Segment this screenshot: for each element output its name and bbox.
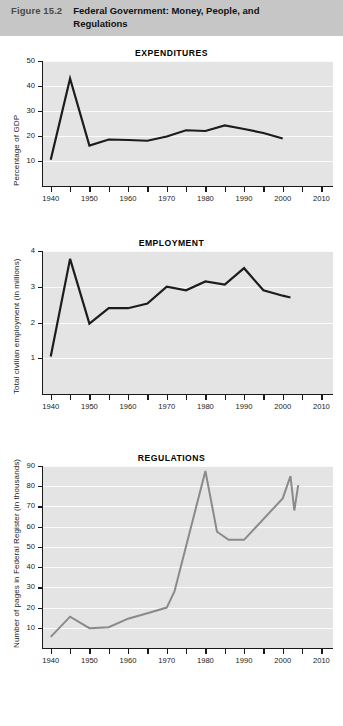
x-tick-label: 1970 xyxy=(154,656,180,665)
y-tick xyxy=(38,161,42,162)
y-tick-label: 3 xyxy=(19,282,35,291)
x-tick xyxy=(51,187,52,192)
series-layer xyxy=(43,61,333,186)
x-tick xyxy=(263,395,264,400)
y-tick xyxy=(38,486,42,487)
y-tick-label: 60 xyxy=(19,522,35,531)
x-tick xyxy=(225,395,226,400)
x-tick-label: 1980 xyxy=(192,194,218,203)
x-tick xyxy=(321,395,322,400)
x-tick xyxy=(283,187,284,192)
x-tick xyxy=(244,187,245,192)
x-tick-label: 1990 xyxy=(231,402,257,411)
x-tick-label: 2000 xyxy=(270,402,296,411)
y-tick xyxy=(38,466,42,467)
data-line-employment-0 xyxy=(51,259,291,357)
x-tick xyxy=(70,395,71,400)
x-tick xyxy=(51,649,52,654)
x-tick-label: 2000 xyxy=(270,656,296,665)
x-axis-expenditures xyxy=(42,186,333,187)
x-tick xyxy=(128,395,129,400)
y-axis-expenditures xyxy=(42,61,43,187)
x-tick-label: 1970 xyxy=(154,194,180,203)
y-tick-label: 20 xyxy=(19,131,35,140)
x-tick xyxy=(186,187,187,192)
series-layer xyxy=(43,251,333,394)
x-tick xyxy=(147,187,148,192)
x-tick-label: 1940 xyxy=(38,402,64,411)
y-tick-label: 40 xyxy=(19,81,35,90)
plot-area-regulations xyxy=(43,466,333,648)
x-tick-label: 1950 xyxy=(76,402,102,411)
x-tick xyxy=(109,649,110,654)
x-tick xyxy=(147,649,148,654)
x-tick-label: 2010 xyxy=(308,402,334,411)
x-tick xyxy=(244,649,245,654)
x-tick xyxy=(147,395,148,400)
chart-regulations: REGULATIONSNumber of pages in Federal Re… xyxy=(0,453,343,674)
y-tick-label: 2 xyxy=(19,318,35,327)
y-axis-regulations xyxy=(42,466,43,649)
x-tick xyxy=(89,649,90,654)
x-axis-employment xyxy=(42,394,333,395)
x-tick-label: 1950 xyxy=(76,194,102,203)
x-tick-label: 1980 xyxy=(192,402,218,411)
x-tick xyxy=(89,395,90,400)
y-tick-label: 70 xyxy=(19,501,35,510)
x-tick-label: 1980 xyxy=(192,656,218,665)
x-tick-label: 1960 xyxy=(115,656,141,665)
x-tick-label: 1950 xyxy=(76,656,102,665)
chart-expenditures: EXPENDITURESPercentage of GDP10203040501… xyxy=(0,48,343,212)
x-tick-label: 2010 xyxy=(308,194,334,203)
data-line-expenditures-0 xyxy=(51,79,283,160)
x-tick xyxy=(283,649,284,654)
y-tick xyxy=(38,608,42,609)
y-tick-label: 90 xyxy=(19,461,35,470)
y-tick xyxy=(38,86,42,87)
x-tick xyxy=(70,649,71,654)
x-tick xyxy=(225,187,226,192)
x-tick xyxy=(205,187,206,192)
figure-title: Federal Government: Money, People, and R… xyxy=(73,5,309,30)
x-tick xyxy=(167,649,168,654)
series-layer xyxy=(43,466,333,648)
y-tick xyxy=(38,287,42,288)
y-tick-label: 30 xyxy=(19,582,35,591)
x-tick xyxy=(302,649,303,654)
y-tick-label: 10 xyxy=(19,623,35,632)
y-tick xyxy=(38,506,42,507)
y-tick xyxy=(38,251,42,252)
x-tick xyxy=(89,187,90,192)
y-axis-label-expenditures: Percentage of GDP xyxy=(12,115,21,186)
figure-number: Figure 15.2 xyxy=(11,5,62,16)
chart-title-expenditures: EXPENDITURES xyxy=(0,48,343,58)
x-tick xyxy=(321,649,322,654)
plot-area-expenditures xyxy=(43,61,333,186)
x-tick-label: 2000 xyxy=(270,194,296,203)
y-tick xyxy=(38,587,42,588)
y-tick-label: 20 xyxy=(19,603,35,612)
x-tick xyxy=(302,395,303,400)
x-tick xyxy=(225,649,226,654)
figure-header-band: Figure 15.2 Federal Government: Money, P… xyxy=(0,0,343,36)
x-tick xyxy=(263,649,264,654)
x-tick-label: 1940 xyxy=(38,656,64,665)
y-tick-label: 50 xyxy=(19,542,35,551)
x-tick xyxy=(70,187,71,192)
y-tick xyxy=(38,567,42,568)
chart-title-employment: EMPLOYMENT xyxy=(0,238,343,248)
x-tick-label: 1990 xyxy=(231,656,257,665)
x-axis-regulations xyxy=(42,648,333,649)
x-tick xyxy=(302,187,303,192)
x-tick xyxy=(321,187,322,192)
x-tick-label: 1960 xyxy=(115,402,141,411)
y-tick xyxy=(38,136,42,137)
data-line-regulations-0 xyxy=(51,471,298,637)
x-tick-label: 1990 xyxy=(231,194,257,203)
x-tick-label: 1940 xyxy=(38,194,64,203)
x-tick xyxy=(109,187,110,192)
x-tick xyxy=(167,395,168,400)
x-tick xyxy=(244,395,245,400)
x-tick xyxy=(186,649,187,654)
y-tick xyxy=(38,527,42,528)
